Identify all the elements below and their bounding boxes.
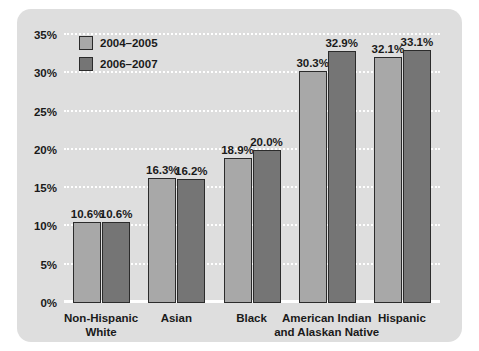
y-axis-tick-label: 0% xyxy=(40,297,57,309)
y-axis-tick-label: 35% xyxy=(34,29,57,41)
x-axis-category-label-line: Hispanic xyxy=(342,311,462,325)
bar-value-label: 33.1% xyxy=(401,36,434,48)
x-axis-category-label: Hispanic xyxy=(342,311,462,325)
bar-group: 16.3%16.2%Asian xyxy=(148,35,205,303)
y-axis-tick-label: 30% xyxy=(34,67,57,79)
y-axis-tick-label: 10% xyxy=(34,220,57,232)
bar-value-label: 10.6% xyxy=(71,208,104,220)
y-axis-tick-label: 5% xyxy=(40,259,57,271)
bar-value-label: 30.3% xyxy=(296,57,329,69)
bar-value-label: 32.1% xyxy=(372,43,405,55)
y-axis-tick-label: 15% xyxy=(34,182,57,194)
bar-groups: 10.6%10.6%Non-HispanicWhite16.3%16.2%Asi… xyxy=(64,35,440,303)
bar: 10.6% xyxy=(73,222,101,303)
bar-group: 10.6%10.6%Non-HispanicWhite xyxy=(73,35,130,303)
bar-group: 32.1%33.1%Hispanic xyxy=(374,35,431,303)
bar-value-label: 10.6% xyxy=(100,208,133,220)
y-axis-tick-label: 20% xyxy=(34,144,57,156)
bar-value-label: 16.3% xyxy=(146,164,179,176)
chart-panel: 2004–2005 2006–2007 0%5%10%15%20%25%30%3… xyxy=(17,9,462,342)
bar: 20.0% xyxy=(253,150,281,303)
bar: 10.6% xyxy=(102,222,130,303)
bar-group: 18.9%20.0%Black xyxy=(224,35,281,303)
y-axis-tick-label: 25% xyxy=(34,106,57,118)
bar: 33.1% xyxy=(403,50,431,303)
bar: 16.3% xyxy=(148,178,176,303)
bar: 32.9% xyxy=(328,51,356,303)
x-axis-category-label-line: White xyxy=(41,325,161,339)
plot-area: 0%5%10%15%20%25%30%35% 10.6%10.6%Non-His… xyxy=(64,35,440,303)
bar: 18.9% xyxy=(224,158,252,303)
bar-value-label: 20.0% xyxy=(250,136,283,148)
bar-group: 30.3%32.9%American Indianand Alaskan Nat… xyxy=(299,35,356,303)
x-axis-category-label-line: and Alaskan Native xyxy=(267,325,387,339)
bar-value-label: 16.2% xyxy=(175,165,208,177)
bar-value-label: 18.9% xyxy=(221,144,254,156)
bar: 30.3% xyxy=(299,71,327,303)
bar-value-label: 32.9% xyxy=(325,37,358,49)
bar: 16.2% xyxy=(177,179,205,303)
bar: 32.1% xyxy=(374,57,402,303)
